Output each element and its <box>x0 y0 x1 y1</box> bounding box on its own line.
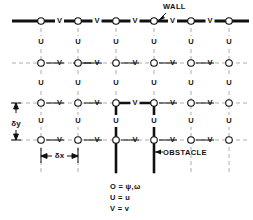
v-label-r3c1: V <box>57 98 62 107</box>
u-overlay-b1c4: U <box>151 37 156 46</box>
v-label-wall-3: V <box>132 16 137 25</box>
dy-arrow-up <box>14 103 19 109</box>
v-label-r2c3: V <box>132 58 137 67</box>
delta-y-label: δy <box>11 119 21 128</box>
o-node-r3c6 <box>226 100 233 107</box>
u-label-obstacle-left: U <box>113 116 118 125</box>
v-label-r3c2: V <box>94 98 99 107</box>
u-overlay-b2c1: U <box>38 78 43 87</box>
o-node-r4c2 <box>75 137 82 144</box>
o-node-r1c2 <box>75 18 82 25</box>
o-node-r4c1 <box>38 137 45 144</box>
u-labels-on-obstacle: U U <box>112 115 159 127</box>
u-overlay-b3c2: U <box>75 116 80 125</box>
dy-arrow-down <box>14 134 19 140</box>
delta-y-dimension: δy <box>11 103 21 140</box>
o-node-r3c1 <box>38 100 45 107</box>
o-node-r2c3 <box>113 60 120 67</box>
u-overlay-b1c6: U <box>226 37 231 46</box>
o-node-r2c1 <box>38 60 45 67</box>
u-overlay-b1c2: U <box>75 37 80 46</box>
u-overlay-b1c1: U <box>38 37 43 46</box>
v-label-r4c3: V <box>132 135 137 144</box>
obstacle-annotation: OBSTACLE <box>155 148 207 157</box>
u-labels-overlay: U U U U U U U U U U U U U U U U <box>38 37 231 125</box>
legend-key: O = ψ,ω U = u V = v <box>110 182 141 213</box>
o-node-r4c3 <box>113 137 120 144</box>
u-overlay-b1c5: U <box>188 37 193 46</box>
obstacle-label: OBSTACLE <box>163 148 207 157</box>
v-label-r3c5: V <box>207 98 212 107</box>
v-label-wall-5: V <box>207 16 212 25</box>
v-label-wall-4: V <box>170 16 175 25</box>
u-overlay-b3c5: U <box>188 116 193 125</box>
delta-x-label: δx <box>55 151 65 160</box>
o-node-r2c6 <box>226 60 233 67</box>
v-label-on-obstacle: V <box>131 97 140 109</box>
grid-diagram-svg: V V V V V V V V V V V V V V V V V V V V <box>0 0 253 220</box>
o-node-r4c4 <box>151 137 158 144</box>
v-label-wall-1: V <box>57 16 62 25</box>
u-labels: U U U U U U U U U U U U U U U U U U <box>38 37 231 125</box>
v-label-r4c2: V <box>94 135 99 144</box>
u-overlay-b2c3: U <box>113 78 118 87</box>
v-label-wall-2: V <box>94 16 99 25</box>
o-node-r1c5 <box>188 18 195 25</box>
o-node-r1c1 <box>38 18 45 25</box>
o-node-r3c5 <box>188 100 195 107</box>
o-nodes <box>38 18 233 144</box>
delta-x-dimension: δx <box>41 148 78 163</box>
u-label-masks <box>37 36 234 127</box>
legend-line-1: O = ψ,ω <box>110 182 141 191</box>
wall-label: WALL <box>163 2 186 11</box>
v-label-obstacle-top: V <box>132 98 137 107</box>
o-node-r3c3 <box>113 100 120 107</box>
v-label-r3c4: V <box>170 98 175 107</box>
u-overlay-b3c1: U <box>38 116 43 125</box>
v-label-r2c4: V <box>170 58 175 67</box>
u-overlay-b3c6: U <box>226 116 231 125</box>
u-overlay-b2c4: U <box>151 78 156 87</box>
u-overlay-b2c2: U <box>75 78 80 87</box>
dx-arrow-left <box>41 154 47 159</box>
legend-line-2: U = u <box>110 193 130 202</box>
o-node-r3c4 <box>151 100 158 107</box>
v-label-r2c5: V <box>207 58 212 67</box>
o-node-r1c6 <box>226 18 233 25</box>
u-overlay-b2c6: U <box>226 78 231 87</box>
dx-arrow-right <box>72 154 78 159</box>
o-node-r1c4 <box>151 18 158 25</box>
figure-root: V V V V V V V V V V V V V V V V V V V V <box>0 0 253 220</box>
v-label-r2c2: V <box>94 58 99 67</box>
u-overlay-b2c5: U <box>188 78 193 87</box>
u-overlay-b1c3: U <box>113 37 118 46</box>
v-label-r2c1: V <box>57 58 62 67</box>
o-node-r3c2 <box>75 100 82 107</box>
o-node-r1c3 <box>113 18 120 25</box>
o-node-r2c4 <box>151 60 158 67</box>
v-label-r4c4: V <box>170 135 175 144</box>
v-label-r4c1: V <box>57 135 62 144</box>
v-label-r4c5: V <box>207 135 212 144</box>
o-node-r2c2 <box>75 60 82 67</box>
o-node-r2c5 <box>188 60 195 67</box>
obstacle-leader-arrow <box>155 150 161 155</box>
legend-line-3: V = v <box>110 204 130 213</box>
o-node-r4c5 <box>188 137 195 144</box>
o-node-r4c6 <box>226 137 233 144</box>
u-label-obstacle-right: U <box>151 116 156 125</box>
